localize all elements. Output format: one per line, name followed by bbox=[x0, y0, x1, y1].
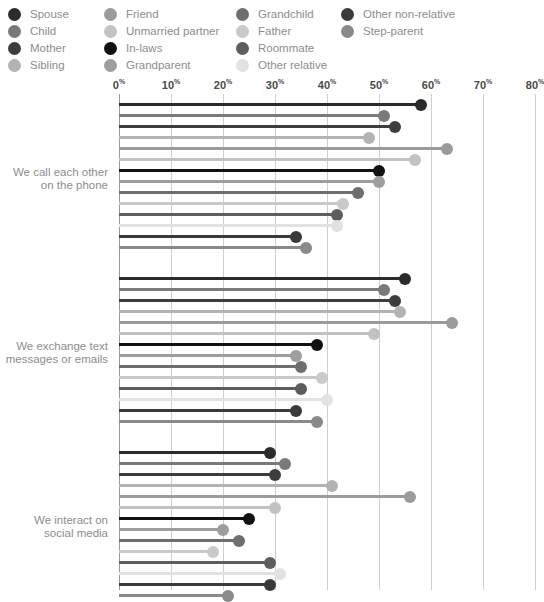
lollipop-dot[interactable] bbox=[389, 121, 401, 133]
legend-item[interactable]: Grandchild bbox=[236, 6, 327, 23]
lollipop-dot[interactable] bbox=[404, 491, 416, 503]
legend-item[interactable]: Spouse bbox=[8, 6, 69, 23]
lollipop-dot[interactable] bbox=[264, 557, 276, 569]
lollipop-dot[interactable] bbox=[441, 143, 453, 155]
legend-swatch-icon bbox=[236, 59, 249, 72]
legend-item-label: Other non-relative bbox=[363, 6, 455, 23]
x-tick-label: 70% bbox=[474, 78, 492, 91]
lollipop-row bbox=[119, 550, 213, 553]
lollipop-dot[interactable] bbox=[326, 480, 338, 492]
legend-item[interactable]: Mother bbox=[8, 40, 69, 57]
lollipop-dot[interactable] bbox=[295, 361, 307, 373]
lollipop-stem bbox=[119, 528, 223, 531]
legend-swatch-icon bbox=[341, 25, 354, 38]
legend-item[interactable]: Step-parent bbox=[341, 23, 455, 40]
legend-item-label: Father bbox=[258, 23, 291, 40]
lollipop-row bbox=[119, 594, 228, 597]
x-tick-value: 10 bbox=[162, 79, 174, 91]
lollipop-dot[interactable] bbox=[269, 469, 281, 481]
lollipop-dot[interactable] bbox=[446, 317, 458, 329]
lollipop-row bbox=[119, 387, 301, 390]
lollipop-dot[interactable] bbox=[415, 99, 427, 111]
lollipop-row bbox=[119, 246, 306, 249]
legend-swatch-icon bbox=[236, 25, 249, 38]
lollipop-dot[interactable] bbox=[274, 568, 286, 580]
lollipop-dot[interactable] bbox=[233, 535, 245, 547]
lollipop-dot[interactable] bbox=[399, 273, 411, 285]
lollipop-dot[interactable] bbox=[378, 284, 390, 296]
lollipop-dot[interactable] bbox=[352, 187, 364, 199]
legend-item[interactable]: Father bbox=[236, 23, 327, 40]
lollipop-row bbox=[119, 343, 317, 346]
legend-item[interactable]: Unmarried partner bbox=[104, 23, 219, 40]
legend-item[interactable]: Roommate bbox=[236, 40, 327, 57]
lollipop-stem bbox=[119, 420, 317, 423]
x-tick-label: 30% bbox=[266, 78, 284, 91]
legend-item[interactable]: Friend bbox=[104, 6, 219, 23]
percent-sign: % bbox=[174, 78, 180, 85]
lollipop-dot[interactable] bbox=[269, 502, 281, 514]
lollipop-dot[interactable] bbox=[217, 524, 229, 536]
lollipop-stem bbox=[119, 409, 296, 412]
x-tick-label: 20% bbox=[214, 78, 232, 91]
lollipop-dot[interactable] bbox=[409, 154, 421, 166]
lollipop-dot[interactable] bbox=[243, 513, 255, 525]
lollipop-dot[interactable] bbox=[222, 590, 234, 602]
legend-item[interactable]: Other relative bbox=[236, 57, 327, 74]
lollipop-row bbox=[119, 169, 379, 172]
lollipop-dot[interactable] bbox=[264, 447, 276, 459]
lollipop-dot[interactable] bbox=[316, 372, 328, 384]
lollipop-row bbox=[119, 473, 275, 476]
lollipop-stem bbox=[119, 517, 249, 520]
lollipop-dot[interactable] bbox=[394, 306, 406, 318]
lollipop-dot[interactable] bbox=[290, 231, 302, 243]
legend-item[interactable]: Grandparent bbox=[104, 57, 219, 74]
lollipop-dot[interactable] bbox=[300, 242, 312, 254]
lollipop-dot[interactable] bbox=[363, 132, 375, 144]
legend-swatch-icon bbox=[236, 42, 249, 55]
lollipop-dot[interactable] bbox=[290, 405, 302, 417]
plot-area: 0%10%20%30%40%50%60%70%80% We call each … bbox=[0, 78, 526, 590]
lollipop-row bbox=[119, 376, 322, 379]
lollipop-dot[interactable] bbox=[264, 579, 276, 591]
lollipop-dot[interactable] bbox=[373, 176, 385, 188]
lollipop-row bbox=[119, 517, 249, 520]
gridline bbox=[431, 94, 432, 590]
lollipop-stem bbox=[119, 299, 395, 302]
legend-item[interactable]: Other non-relative bbox=[341, 6, 455, 23]
lollipop-stem bbox=[119, 213, 337, 216]
x-tick-value: 40 bbox=[318, 79, 330, 91]
lollipop-row bbox=[119, 332, 374, 335]
legend-item-label: In-laws bbox=[126, 40, 162, 57]
lollipop-dot[interactable] bbox=[368, 328, 380, 340]
lollipop-stem bbox=[119, 147, 447, 150]
lollipop-dot[interactable] bbox=[207, 546, 219, 558]
legend-item[interactable]: Child bbox=[8, 23, 69, 40]
lollipop-dot[interactable] bbox=[311, 416, 323, 428]
lollipop-row bbox=[119, 147, 447, 150]
lollipop-dot[interactable] bbox=[321, 394, 333, 406]
lollipop-dot[interactable] bbox=[378, 110, 390, 122]
lollipop-stem bbox=[119, 354, 296, 357]
group-label-line1: We interact on bbox=[0, 514, 108, 527]
x-tick-label: 60% bbox=[422, 78, 440, 91]
legend-swatch-icon bbox=[104, 42, 117, 55]
lollipop-row bbox=[119, 125, 395, 128]
lollipop-row bbox=[119, 321, 452, 324]
lollipop-dot[interactable] bbox=[311, 339, 323, 351]
lollipop-stem bbox=[119, 343, 317, 346]
lollipop-stem bbox=[119, 561, 270, 564]
lollipop-stem bbox=[119, 387, 301, 390]
lollipop-dot[interactable] bbox=[331, 220, 343, 232]
lollipop-stem bbox=[119, 277, 405, 280]
legend-item[interactable]: In-laws bbox=[104, 40, 219, 57]
lollipop-row bbox=[119, 528, 223, 531]
lollipop-dot[interactable] bbox=[295, 383, 307, 395]
x-tick-label: 10% bbox=[162, 78, 180, 91]
percent-sign: % bbox=[278, 78, 284, 85]
lollipop-dot[interactable] bbox=[279, 458, 291, 470]
lollipop-row bbox=[119, 572, 280, 575]
legend-item[interactable]: Sibling bbox=[8, 57, 69, 74]
legend-item-label: Other relative bbox=[258, 57, 327, 74]
lollipop-row bbox=[119, 235, 296, 238]
